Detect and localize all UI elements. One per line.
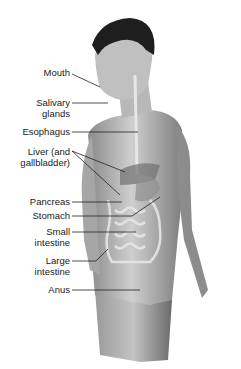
label-large-intestine: Large intestine — [35, 255, 70, 277]
label-esophagus: Esophagus — [22, 126, 70, 137]
label-anus: Anus — [48, 284, 70, 295]
arm-right — [176, 125, 208, 298]
label-pancreas: Pancreas — [30, 196, 70, 207]
label-small-intestine: Small intestine — [35, 226, 70, 248]
human-figure-illustration — [0, 0, 241, 369]
label-liver-gallbladder: Liver (and gallbladder) — [20, 146, 70, 168]
label-stomach: Stomach — [33, 210, 71, 221]
esophagus — [135, 75, 137, 175]
digestive-system-diagram: Mouth Salivary glands Esophagus Liver (a… — [0, 0, 241, 369]
label-salivary-glands: Salivary glands — [36, 97, 70, 119]
label-mouth: Mouth — [44, 67, 70, 78]
